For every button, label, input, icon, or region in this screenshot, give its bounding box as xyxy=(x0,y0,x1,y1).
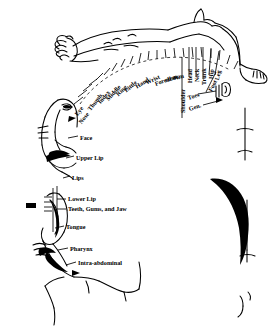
side-label-pharynx: Pharynx xyxy=(70,246,93,252)
side-label-teeth-gums-jaw: Teeth, Gums, and Jaw xyxy=(68,206,127,212)
radial-label-shoulder: Shoulder xyxy=(180,89,186,113)
side-label-lips: Lips xyxy=(72,175,84,181)
side-label-tongue: Tongue xyxy=(66,224,85,230)
side-label-upper-lip: Upper Lip xyxy=(76,155,104,161)
side-label-lower-lip: Lower Lip xyxy=(68,196,96,202)
side-label-intra-abdominal: Intra-abdominal xyxy=(78,260,122,266)
homunculus-figure xyxy=(0,0,279,328)
radial-label-arm: arm xyxy=(173,73,185,80)
side-label-face: Face xyxy=(80,135,92,141)
homunculus-diagram: Eye Nose Thumb Index Middle Ring Little … xyxy=(0,0,279,328)
